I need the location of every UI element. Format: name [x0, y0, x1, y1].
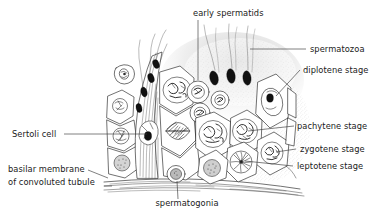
label-zygotene-stage: zygotene stage: [300, 144, 365, 154]
basal-spermatogonium-right: [198, 150, 228, 184]
label-early-spermatids: early spermatids: [193, 8, 264, 18]
label-spermatozoa: spermatozoa: [310, 44, 365, 54]
zygotene-nucleus: [261, 142, 283, 164]
pachytene-nucleus-left: [163, 77, 191, 103]
figure-root: early spermatids spermatozoa diplotene s…: [0, 0, 385, 216]
spermatogenesis-diagram: early spermatids spermatozoa diplotene s…: [0, 0, 385, 216]
label-diplotene-stage: diplotene stage: [303, 65, 368, 75]
pachytene-nucleus-right: [233, 119, 258, 143]
label-pachytene-stage: pachytene stage: [297, 121, 367, 131]
label-spermatogonia: spermatogonia: [155, 198, 218, 208]
leader-spermatogonia: [177, 181, 178, 199]
pachytene-nucleus-center: [199, 121, 227, 148]
label-sertoli-cell: Sertoli cell: [12, 129, 56, 139]
leptotene-nucleus: [230, 151, 252, 173]
label-basilar-membrane-line2: of convoluted tubule: [8, 177, 95, 187]
basilar-membrane: [104, 179, 304, 196]
label-leptotene-stage: leptotene stage: [297, 161, 363, 171]
spermatogonium-cell: [167, 166, 185, 183]
label-basilar-membrane-line1: basilar membrane: [8, 164, 85, 174]
